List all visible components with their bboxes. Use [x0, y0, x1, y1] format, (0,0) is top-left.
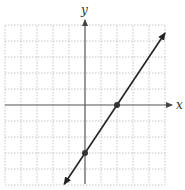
coordinate-plane: x y [0, 0, 185, 190]
x-axis-label: x [176, 98, 183, 112]
y-intercept-point [82, 150, 88, 156]
x-intercept-point [114, 102, 120, 108]
linear-function-line [64, 33, 165, 184]
plot-line [64, 33, 165, 184]
y-axis-label: y [80, 3, 88, 17]
